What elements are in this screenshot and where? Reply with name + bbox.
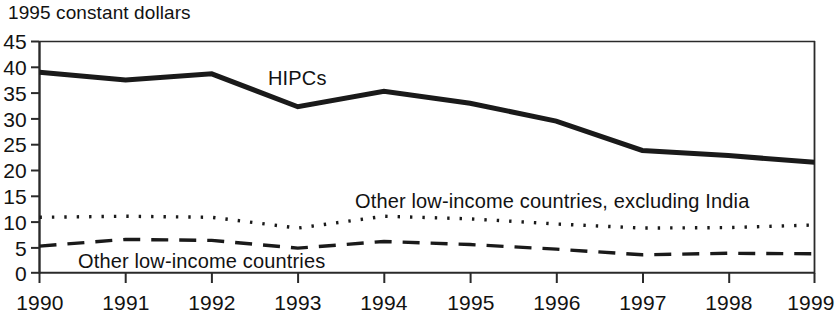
y-tick-label-10: 10 [0, 212, 27, 233]
series-annotation-other-low-income-excluding-india: Other low-income countries, excluding In… [355, 190, 749, 212]
x-tick-label-1993: 1993 [253, 292, 343, 313]
y-axis-ticks [31, 42, 39, 273]
x-tick-label-1992: 1992 [167, 292, 257, 313]
data-series-group [40, 72, 815, 254]
x-axis-ticks [40, 273, 815, 283]
x-tick-label-1997: 1997 [598, 292, 688, 313]
chart-plot-area [0, 0, 837, 326]
y-tick-label-30: 30 [0, 109, 27, 130]
x-tick-label-1994: 1994 [339, 292, 429, 313]
y-tick-label-25: 25 [0, 134, 27, 155]
y-tick-label-35: 35 [0, 83, 27, 104]
x-tick-label-1990: 1990 [0, 292, 85, 313]
y-tick-label-40: 40 [0, 57, 27, 78]
y-tick-label-0: 0 [0, 263, 27, 284]
x-tick-label-1996: 1996 [512, 292, 602, 313]
series-line-other-low-income-excluding-india [40, 216, 815, 228]
y-tick-label-20: 20 [0, 160, 27, 181]
x-tick-label-1995: 1995 [426, 292, 516, 313]
y-tick-label-15: 15 [0, 186, 27, 207]
x-tick-label-1991: 1991 [81, 292, 171, 313]
x-tick-label-1999: 1999 [766, 292, 837, 313]
series-annotation-other-low-income-countries: Other low-income countries [78, 250, 325, 272]
chart-container: 1995 constant dollars [0, 0, 837, 326]
y-tick-label-5: 5 [0, 238, 27, 259]
series-annotation-hipcs: HIPCs [268, 67, 327, 89]
x-tick-label-1998: 1998 [684, 292, 774, 313]
y-tick-label-45: 45 [0, 31, 27, 52]
series-line-hipcs [40, 72, 815, 162]
